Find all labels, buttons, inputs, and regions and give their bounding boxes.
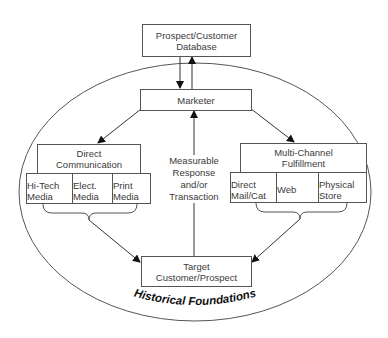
multi-channel-fulfillment-box: Multi-Channel Fulfillment bbox=[240, 143, 367, 173]
marketer-box: Marketer bbox=[140, 89, 252, 111]
channel-label-line1: Direct bbox=[231, 179, 256, 190]
arrow-direct-communication-to-target bbox=[89, 220, 140, 262]
measurable-response-label: Measurable Response and/or Transaction bbox=[162, 155, 226, 203]
database-label-line2: Database bbox=[176, 41, 217, 52]
channel-label-line2: Media bbox=[27, 191, 53, 202]
arrow-fulfillment-to-target bbox=[252, 219, 300, 262]
fulfillment-line1: Multi-Channel bbox=[274, 147, 333, 158]
response-line1: Measurable bbox=[162, 155, 226, 167]
arrow-marketer-to-direct-communication bbox=[98, 109, 141, 143]
channel-label-line2: Store bbox=[319, 190, 342, 201]
response-line2: Response bbox=[162, 167, 226, 179]
channel-label-line2: Media bbox=[113, 191, 139, 202]
prospect-customer-database-box: Prospect/Customer Database bbox=[142, 24, 251, 57]
channel-print-media: Print Media bbox=[112, 173, 151, 204]
channel-label-line1: Physical bbox=[319, 179, 354, 190]
target-line2: Customer/Prospect bbox=[156, 272, 237, 283]
channel-hi-tech-media: Hi-Tech Media bbox=[26, 173, 73, 204]
channel-elect-media: Elect. Media bbox=[72, 173, 113, 204]
brace-fulfillment bbox=[256, 203, 347, 219]
direct-communication-line1: Direct bbox=[77, 148, 102, 159]
direct-communication-line2: Communication bbox=[56, 159, 122, 170]
channel-label-line1: Web bbox=[277, 184, 296, 195]
channel-web: Web bbox=[276, 172, 319, 203]
brace-direct-communication bbox=[43, 204, 137, 220]
channel-label-line1: Elect. bbox=[73, 180, 97, 191]
fulfillment-line2: Fulfillment bbox=[282, 158, 325, 169]
channel-physical-store: Physical Store bbox=[318, 172, 367, 203]
database-label-line1: Prospect/Customer bbox=[156, 30, 237, 41]
response-line3: and/or bbox=[162, 179, 226, 191]
historical-foundations-label: Historical Foundations bbox=[133, 287, 257, 307]
channel-label-line1: Hi-Tech bbox=[27, 180, 59, 191]
target-customer-prospect-box: Target Customer/Prospect bbox=[141, 256, 252, 287]
channel-label-line2: Mail/Cat bbox=[231, 190, 266, 201]
channel-direct-mail-cat: Direct Mail/Cat bbox=[230, 172, 277, 203]
marketer-label: Marketer bbox=[177, 95, 214, 106]
response-line4: Transaction bbox=[162, 191, 226, 203]
target-line1: Target bbox=[183, 261, 209, 272]
channel-label-line2: Media bbox=[73, 191, 99, 202]
channel-label-line1: Print bbox=[113, 180, 133, 191]
arrow-marketer-to-fulfillment bbox=[250, 108, 294, 142]
direct-communication-box: Direct Communication bbox=[37, 144, 141, 174]
